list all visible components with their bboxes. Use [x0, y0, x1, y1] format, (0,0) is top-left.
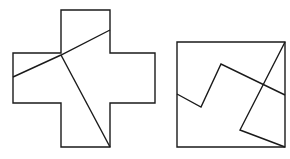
figure-canvas: Two outlined plane figures partitioned b… [0, 0, 290, 159]
canvas-background [0, 0, 290, 159]
